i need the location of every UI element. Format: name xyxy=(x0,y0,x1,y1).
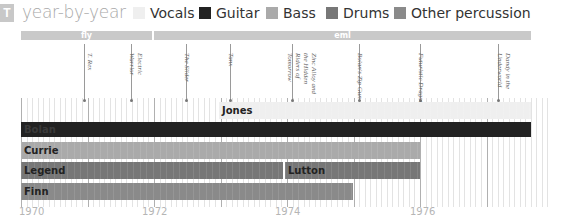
member-label: Jones xyxy=(222,105,252,116)
member-bar-lutton[interactable]: Lutton xyxy=(285,162,420,179)
legend-swatch xyxy=(133,7,145,19)
logo: T xyxy=(0,4,14,22)
member-bar-legend[interactable]: Legend xyxy=(21,162,283,179)
album-marker-dot xyxy=(83,99,86,102)
legend-item-bass[interactable]: Bass xyxy=(266,5,316,21)
legend-swatch xyxy=(199,7,211,19)
legend-label: Vocals xyxy=(150,5,195,21)
page-title: year-by-year xyxy=(22,2,126,22)
album-label: Zinc Alloy and the Hidden Riders of Tomo… xyxy=(290,53,318,99)
album-marker-line xyxy=(84,44,85,100)
legend-label: Bass xyxy=(283,5,316,21)
member-label: Lutton xyxy=(288,165,325,176)
label-band-eml: eml xyxy=(154,31,531,40)
legend-item-drums[interactable]: Drums xyxy=(326,5,389,21)
grid-line xyxy=(542,98,543,207)
album-label: Futuristic Dragon xyxy=(417,53,425,104)
legend-item-vocals[interactable]: Vocals xyxy=(133,5,195,21)
grid-line xyxy=(531,98,532,207)
legend-swatch xyxy=(326,7,338,19)
axis-tick-label: 1972 xyxy=(142,206,167,217)
album-label: Tanx xyxy=(227,53,235,66)
axis-tick-label: 1974 xyxy=(275,206,300,217)
member-bar-bolan[interactable]: Bolan xyxy=(21,122,531,137)
member-bar-currie[interactable]: Currie xyxy=(21,142,420,159)
member-label: Legend xyxy=(24,165,65,176)
member-label: Bolan xyxy=(24,124,56,135)
legend-label: Guitar xyxy=(216,5,259,21)
axis-tick-label: 1970 xyxy=(19,206,44,217)
member-bar-finn[interactable]: Finn xyxy=(21,183,353,200)
album-label: T. Rex xyxy=(86,53,94,70)
grid-line xyxy=(536,98,537,207)
member-label: Currie xyxy=(24,145,59,156)
label-band-fly: fly xyxy=(21,31,152,40)
legend-swatch xyxy=(394,7,406,19)
legend-item-guitar[interactable]: Guitar xyxy=(199,5,259,21)
album-label: Bolan's Zip Gun xyxy=(356,53,364,99)
axis-tick-label: 1976 xyxy=(410,206,435,217)
legend-label: Other percussion xyxy=(411,5,531,21)
album-marker-dot xyxy=(130,99,133,102)
legend-item-other-percussion[interactable]: Other percussion xyxy=(394,5,531,21)
album-marker-dot xyxy=(185,99,188,102)
album-label: The Slider xyxy=(183,53,191,82)
album-label: Electric Warrior xyxy=(128,53,144,99)
member-bar-jones[interactable]: Jones xyxy=(219,102,531,119)
member-label: Finn xyxy=(24,186,49,197)
legend-swatch xyxy=(266,7,278,19)
album-label: Dandy in the Underworld xyxy=(494,53,512,93)
legend-label: Drums xyxy=(343,5,389,21)
grid-line xyxy=(547,98,548,207)
